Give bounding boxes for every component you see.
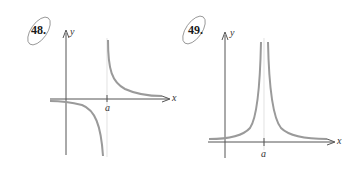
problem-number: 49. bbox=[188, 23, 203, 38]
graph-panel-49: 49. y x a bbox=[177, 0, 354, 170]
graph-48-svg bbox=[0, 0, 177, 170]
graph-49-svg bbox=[177, 0, 354, 170]
asymptote-label: a bbox=[261, 148, 266, 159]
curve-left-branch bbox=[209, 42, 261, 139]
problem-number: 48. bbox=[31, 23, 46, 38]
y-axis-label: y bbox=[70, 26, 74, 37]
x-axis-label: x bbox=[172, 92, 176, 103]
asymptote-label: a bbox=[105, 102, 110, 113]
y-axis-label: y bbox=[230, 27, 234, 38]
curve-right-branch bbox=[268, 42, 327, 139]
curve-lower-branch bbox=[50, 101, 103, 156]
x-axis-label: x bbox=[337, 135, 341, 146]
graph-panel-48: 48. y x a bbox=[0, 0, 177, 170]
curve-upper-branch bbox=[108, 40, 162, 96]
